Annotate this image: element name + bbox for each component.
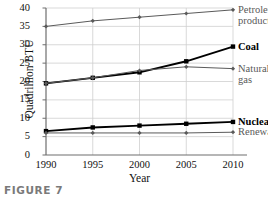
- series-label-1: Coal: [238, 41, 259, 53]
- plot-area: [46, 8, 233, 155]
- series-label-line1: Natural: [238, 63, 268, 75]
- series-marker-3: [231, 120, 235, 124]
- series-marker-3: [137, 123, 141, 127]
- y-tick-label: 5: [0, 131, 30, 141]
- series-label-0: Petroleumproducts: [238, 4, 268, 27]
- chart-canvas: [46, 8, 233, 155]
- x-tick-label: 1995: [71, 159, 115, 170]
- y-tick-label: 10: [0, 113, 30, 123]
- series-marker-2: [231, 67, 235, 71]
- series-marker-1: [231, 44, 235, 48]
- x-tick-label: 2005: [164, 159, 208, 170]
- figure-container: Quadrillion BTU 0510152025303540 1990199…: [0, 0, 268, 200]
- series-label-line1: Petroleum: [238, 4, 268, 16]
- series-marker-4: [91, 131, 95, 135]
- series-marker-2: [184, 65, 188, 69]
- y-tick-label: 0: [0, 150, 30, 160]
- y-tick-label: 30: [0, 39, 30, 49]
- series-marker-0: [91, 19, 95, 23]
- x-tick-label: 2010: [211, 159, 255, 170]
- series-label-line1: Coal: [238, 41, 259, 53]
- figure-caption: FIGURE 7: [4, 184, 63, 196]
- series-label-line1: Renewable: [238, 126, 268, 138]
- x-tick-label: 2000: [118, 159, 162, 170]
- series-marker-3: [184, 122, 188, 126]
- series-label-2: Naturalgas: [238, 63, 268, 86]
- y-tick-label: 15: [0, 94, 30, 104]
- y-tick-label: 40: [0, 3, 30, 13]
- series-label-line2: gas: [238, 74, 268, 86]
- series-marker-0: [44, 24, 48, 28]
- series-marker-4: [231, 130, 235, 134]
- x-axis-title: Year: [46, 172, 233, 184]
- series-label-4: Renewable: [238, 126, 268, 138]
- series-marker-1: [184, 59, 188, 63]
- series-marker-0: [137, 15, 141, 19]
- y-tick-label: 20: [0, 76, 30, 86]
- x-tick-label: 1990: [24, 159, 68, 170]
- y-tick-label: 35: [0, 21, 30, 31]
- y-tick-label: 25: [0, 58, 30, 68]
- series-label-line2: products: [238, 15, 268, 27]
- series-marker-0: [184, 11, 188, 15]
- series-marker-4: [184, 131, 188, 135]
- series-marker-4: [137, 131, 141, 135]
- series-marker-3: [91, 125, 95, 129]
